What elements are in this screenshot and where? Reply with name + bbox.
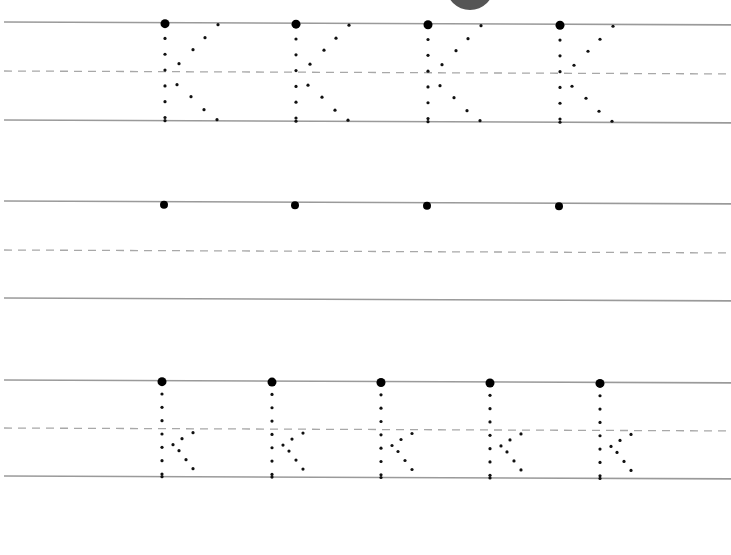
trace-dot <box>287 449 290 452</box>
start-dot <box>424 20 433 29</box>
trace-dot <box>215 118 218 121</box>
letter-k <box>596 379 633 480</box>
trace-dot <box>334 37 337 40</box>
start-dot <box>291 201 299 209</box>
baseline <box>4 120 731 123</box>
trace-dot <box>488 434 491 437</box>
trace-dot <box>488 407 491 410</box>
trace-dot <box>163 37 166 40</box>
trace-dot <box>163 100 166 103</box>
midline-dashed <box>4 250 731 253</box>
trace-dot <box>584 97 587 100</box>
trace-dot <box>160 419 163 422</box>
start-dot <box>596 379 605 388</box>
top-line <box>4 201 731 204</box>
handwriting-worksheet <box>0 0 731 555</box>
trace-dot <box>488 447 491 450</box>
trace-dot <box>410 432 413 435</box>
letter-k <box>377 378 414 479</box>
trace-dot <box>379 460 382 463</box>
trace-dot <box>202 108 205 111</box>
letter-k <box>486 378 523 479</box>
practice-rows <box>4 19 731 480</box>
letter-K <box>556 21 615 124</box>
trace-dot <box>191 48 194 51</box>
trace-dot <box>160 475 163 478</box>
trace-dot <box>598 434 601 437</box>
trace-dot <box>379 433 382 436</box>
start-dot <box>555 202 563 210</box>
trace-dot <box>426 38 429 41</box>
trace-dot <box>466 37 469 40</box>
trace-dot <box>615 451 618 454</box>
top-line <box>4 380 731 383</box>
trace-dot <box>177 449 180 452</box>
letter-start-point <box>423 202 431 210</box>
start-dot <box>268 378 277 387</box>
trace-dot <box>163 84 166 87</box>
trace-dot <box>171 443 174 446</box>
trace-dot <box>572 64 575 67</box>
trace-dot <box>191 431 194 434</box>
trace-dot <box>452 96 455 99</box>
trace-dot <box>270 406 273 409</box>
trace-dot <box>558 70 561 73</box>
trace-dot <box>294 120 297 123</box>
trace-dot <box>519 432 522 435</box>
midline-dashed <box>4 428 731 431</box>
trace-dot <box>598 394 601 397</box>
trace-dot <box>320 96 323 99</box>
trace-dot <box>512 459 515 462</box>
trace-dot <box>598 447 601 450</box>
trace-dot <box>488 476 491 479</box>
trace-dot <box>586 50 589 53</box>
trace-dot <box>294 458 297 461</box>
corner-circle-decoration <box>446 0 494 10</box>
trace-dot <box>488 420 491 423</box>
trace-dot <box>308 63 311 66</box>
trace-dot <box>426 120 429 123</box>
trace-dot <box>177 62 180 65</box>
trace-dot <box>160 432 163 435</box>
trace-dot <box>558 102 561 105</box>
start-dot <box>161 19 170 28</box>
letter-start-point <box>291 201 299 209</box>
top-line <box>4 22 731 25</box>
trace-dot <box>163 53 166 56</box>
trace-dot <box>558 121 561 124</box>
trace-dot <box>379 393 382 396</box>
uppercase-trace-row <box>4 19 731 124</box>
trace-dot <box>519 468 522 471</box>
trace-dot <box>558 86 561 89</box>
trace-dot <box>426 117 429 120</box>
trace-dot <box>454 49 457 52</box>
trace-dot <box>270 459 273 462</box>
trace-dot <box>410 468 413 471</box>
trace-dot <box>379 447 382 450</box>
trace-dot <box>281 443 284 446</box>
trace-dot <box>163 119 166 122</box>
uppercase-practice-row <box>4 201 731 301</box>
trace-dot <box>598 407 601 410</box>
trace-dot <box>333 109 336 112</box>
trace-dot <box>508 438 511 441</box>
trace-dot <box>488 460 491 463</box>
trace-dot <box>379 407 382 410</box>
trace-dot <box>184 458 187 461</box>
trace-dot <box>347 24 350 27</box>
trace-dot <box>270 419 273 422</box>
trace-dot <box>301 467 304 470</box>
trace-dot <box>322 49 325 52</box>
trace-dot <box>160 459 163 462</box>
start-dot <box>292 20 301 29</box>
trace-dot <box>622 460 625 463</box>
start-dot <box>423 202 431 210</box>
trace-dot <box>294 85 297 88</box>
trace-dot <box>505 450 508 453</box>
trace-dot <box>294 53 297 56</box>
lowercase-trace-row <box>4 377 731 480</box>
trace-dot <box>191 467 194 470</box>
letter-k <box>158 377 195 478</box>
trace-dot <box>426 70 429 73</box>
baseline <box>4 298 731 301</box>
